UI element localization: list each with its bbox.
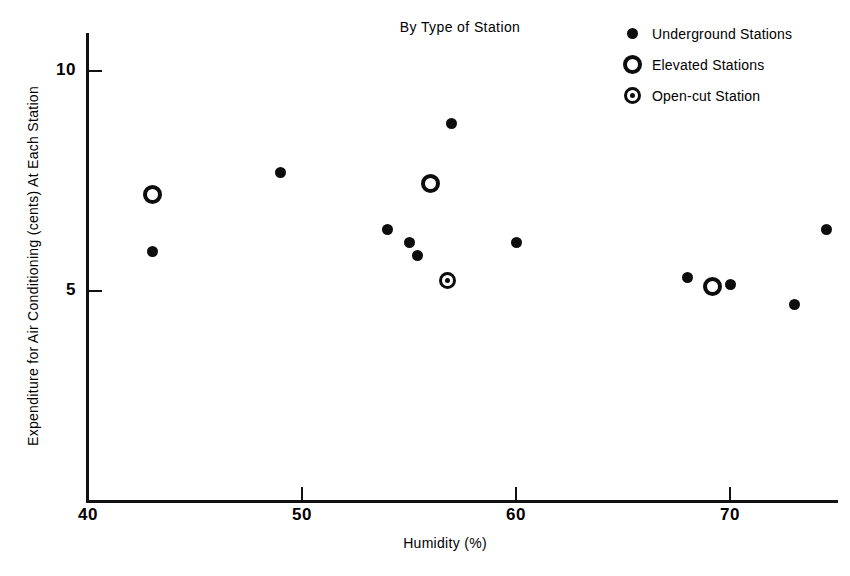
legend-label: Open-cut Station [652, 88, 760, 104]
x-tick-70 [729, 487, 731, 501]
x-tick-50 [301, 487, 303, 501]
circle-with-dot-icon [624, 87, 641, 104]
data-point-filled-circle [511, 237, 522, 248]
data-point-filled-circle [147, 246, 158, 257]
x-tick-label-70: 70 [710, 505, 750, 525]
data-point-filled-circle [446, 118, 457, 129]
y-tick-10 [89, 70, 102, 72]
y-tick-5 [89, 290, 102, 292]
data-point-filled-circle [412, 250, 423, 261]
x-axis-line [86, 500, 838, 503]
y-axis-line [86, 33, 89, 503]
x-tick-label-50: 50 [282, 505, 322, 525]
data-point-open-circle [703, 277, 722, 296]
data-point-filled-circle [725, 279, 736, 290]
legend-label: Elevated Stations [652, 57, 764, 73]
data-point-filled-circle [382, 224, 393, 235]
x-axis-label: Humidity (%) [320, 535, 570, 551]
scatter-chart: By Type of Station 510 40506070 Humidity… [0, 0, 850, 576]
data-point-filled-circle [404, 237, 415, 248]
data-point-filled-circle [682, 272, 693, 283]
legend-item-2[interactable]: Open-cut Station [620, 80, 845, 111]
legend-marker-filled-circle-icon [620, 23, 644, 45]
data-point-filled-circle [789, 299, 800, 310]
data-point-circle-with-dot [439, 272, 456, 289]
legend-item-1[interactable]: Elevated Stations [620, 49, 845, 80]
data-point-open-circle [421, 174, 440, 193]
x-tick-label-60: 60 [496, 505, 536, 525]
y-axis-label: Expenditure for Air Conditioning (cents)… [25, 31, 41, 501]
legend-item-0[interactable]: Underground Stations [620, 18, 845, 49]
legend-marker-circle-with-dot-icon [620, 85, 644, 107]
data-point-filled-circle [275, 167, 286, 178]
data-point-filled-circle [821, 224, 832, 235]
chart-legend: Underground StationsElevated StationsOpe… [620, 18, 845, 111]
filled-circle-icon [627, 28, 638, 39]
chart-title: By Type of Station [330, 19, 590, 35]
legend-marker-open-circle-icon [620, 54, 644, 76]
x-tick-60 [515, 487, 517, 501]
legend-label: Underground Stations [652, 26, 792, 42]
open-circle-icon [623, 55, 642, 74]
x-tick-label-40: 40 [68, 505, 108, 525]
data-point-open-circle [143, 185, 162, 204]
